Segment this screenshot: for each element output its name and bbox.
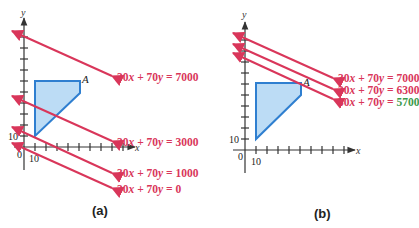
- y-axis-label: y: [20, 7, 26, 18]
- panel-a: y x 0 10 10 A 30x + 70y = 7000 30x + 70y…: [8, 7, 199, 218]
- panel-b: y x 0 10 10 A 30x + 70y = 7000 30x + 70y…: [229, 9, 419, 221]
- equation-label: 30x + 70y = 1000: [117, 167, 199, 180]
- figure: y x 0 10 10 A 30x + 70y = 7000 30x + 70y…: [0, 0, 419, 228]
- y-tick-label: 10: [229, 134, 239, 145]
- y-axis-label: y: [241, 9, 247, 20]
- vertex-label-a: A: [81, 73, 89, 85]
- panel-label: (b): [314, 206, 331, 221]
- origin-label: 0: [17, 149, 22, 160]
- origin-label: 0: [238, 151, 243, 162]
- x-tick-label: 10: [251, 156, 261, 167]
- panel-label: (a): [92, 203, 108, 218]
- feasible-region: [256, 83, 301, 139]
- equation-label: 30x + 70y = 5700: [338, 96, 419, 109]
- equation-label: 30x + 70y = 7000: [117, 71, 199, 84]
- highlighted-value: 5700: [396, 96, 419, 108]
- equation-label: 30x + 70y = 0: [117, 183, 181, 196]
- y-tick-label: 10: [8, 131, 18, 142]
- equation-label: 30x + 70y = 3000: [117, 136, 199, 149]
- x-axis-label: x: [355, 145, 361, 156]
